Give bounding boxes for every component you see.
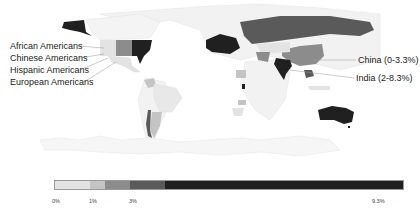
region-brazil [154, 84, 182, 112]
region-se-asia [304, 70, 314, 78]
region-kenya [242, 84, 245, 89]
legend-segment-3 [130, 181, 165, 189]
annotation-chinese-americans: Chinese Americans [10, 53, 88, 63]
annotation-european-americans: European Americans [10, 77, 94, 87]
legend-segment-0 [55, 181, 90, 189]
region-tasmania [348, 126, 350, 128]
region-canada [86, 14, 160, 40]
region-us-central [116, 40, 132, 56]
annotation-china: China (0-3.3%) [358, 55, 419, 65]
region-south-africa [232, 108, 244, 116]
legend-tick-3: 3% [129, 198, 137, 204]
legend-segment-4 [165, 181, 403, 189]
color-scale-legend [54, 180, 404, 190]
annotation-hispanic-americans: Hispanic Americans [10, 65, 89, 75]
legend-segment-1 [90, 181, 106, 189]
annotation-india: India (2-8.3%) [356, 73, 413, 83]
region-us-east [132, 40, 152, 64]
region-zambia [238, 100, 246, 105]
region-indonesia [308, 86, 330, 90]
region-sudan [236, 70, 246, 78]
annotation-african-americans: African Americans [10, 41, 83, 51]
legend-segment-2 [105, 181, 129, 189]
legend-tick-max: 9.3% [372, 198, 385, 204]
legend-tick-1: 1% [89, 198, 97, 204]
region-australia [318, 106, 354, 124]
region-iran [256, 52, 270, 62]
legend-tick-0: 0% [52, 198, 60, 204]
